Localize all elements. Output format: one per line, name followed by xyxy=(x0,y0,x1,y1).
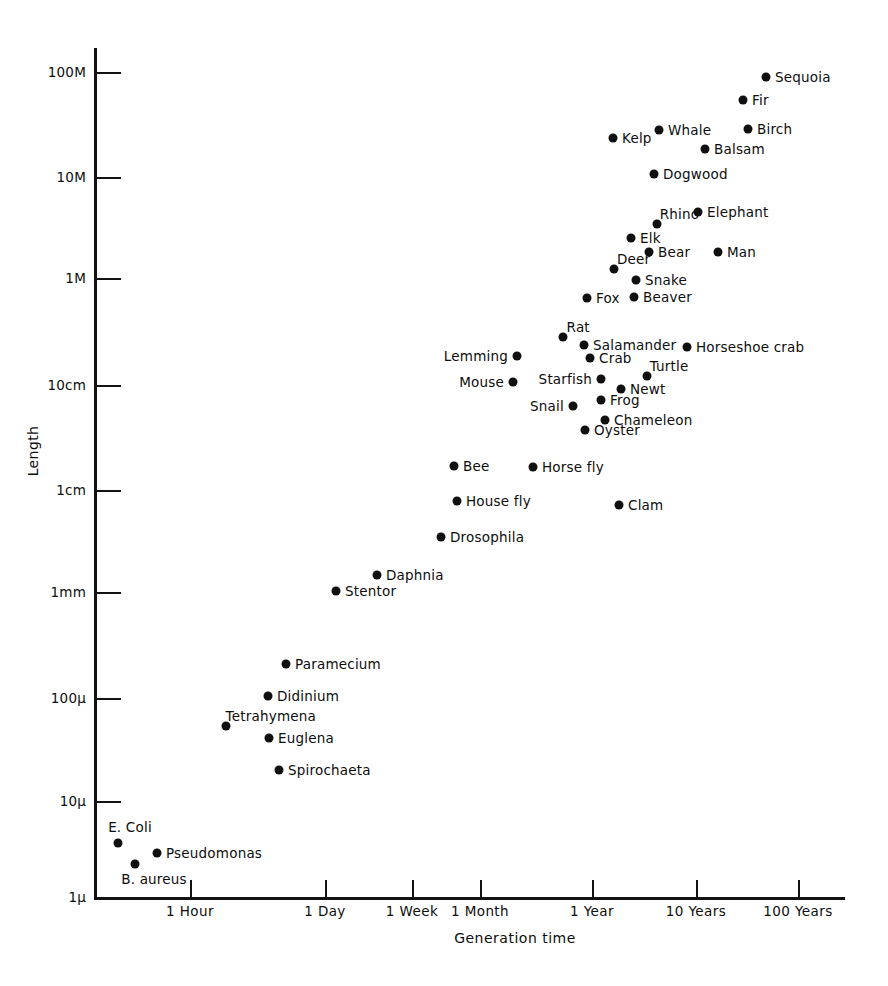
data-point xyxy=(627,234,636,243)
data-point-label: Man xyxy=(727,244,756,260)
data-point-label: Drosophila xyxy=(450,529,524,545)
data-point xyxy=(569,402,578,411)
y-tick-label: 10M xyxy=(0,169,94,185)
data-point-label: Bee xyxy=(463,458,489,474)
x-axis-line xyxy=(94,897,845,900)
x-tick-label: 100 Years xyxy=(763,903,832,919)
data-point xyxy=(373,571,382,580)
x-tick-mark xyxy=(190,880,192,898)
data-point-label: Spirochaeta xyxy=(288,762,371,778)
y-tick-label: 1M xyxy=(0,270,94,286)
data-point-label: Starfish xyxy=(539,371,592,387)
y-tick-mark xyxy=(97,177,121,179)
data-point xyxy=(597,396,606,405)
data-point-label: Crab xyxy=(599,350,632,366)
data-point xyxy=(615,501,624,510)
data-point xyxy=(153,849,162,858)
y-tick-label: 10cm xyxy=(0,377,94,393)
data-point xyxy=(583,294,592,303)
data-point-label: Tetrahymena xyxy=(226,708,316,724)
data-point xyxy=(332,587,341,596)
data-point-label: Turtle xyxy=(650,358,689,374)
data-point-label: Balsam xyxy=(714,141,765,157)
x-tick-mark xyxy=(412,880,414,898)
y-tick-mark xyxy=(97,698,121,700)
data-point-label: Fir xyxy=(752,92,769,108)
x-axis-title: Generation time xyxy=(454,930,576,946)
data-point xyxy=(450,462,459,471)
data-point-label: Fox xyxy=(596,290,620,306)
data-point-label: Paramecium xyxy=(295,656,381,672)
y-tick-label: 100μ xyxy=(0,690,94,706)
data-point-label: Stentor xyxy=(345,583,396,599)
data-point xyxy=(744,125,753,134)
x-tick-mark xyxy=(798,880,800,898)
data-point-label: House fly xyxy=(466,493,531,509)
data-point-label: Pseudomonas xyxy=(166,845,262,861)
data-point xyxy=(580,341,589,350)
data-point xyxy=(630,293,639,302)
data-point xyxy=(114,839,123,848)
data-point xyxy=(683,343,692,352)
data-point-label: Didinium xyxy=(277,688,339,704)
y-axis-title: Length xyxy=(25,426,41,477)
x-tick-label: 10 Years xyxy=(666,903,726,919)
x-tick-mark xyxy=(325,880,327,898)
y-tick-label: 1mm xyxy=(0,584,94,600)
data-point xyxy=(632,276,641,285)
x-tick-mark xyxy=(480,880,482,898)
data-point xyxy=(264,692,273,701)
data-point-label: Horseshoe crab xyxy=(696,339,804,355)
data-point xyxy=(762,73,771,82)
scatter-plot: Length Generation time 100M10M1M10cm1cm1… xyxy=(0,0,888,986)
data-point xyxy=(437,533,446,542)
data-point-label: Bear xyxy=(658,244,690,260)
data-point-label: Beaver xyxy=(643,289,692,305)
data-point-label: Elephant xyxy=(707,204,768,220)
data-point-label: Oyster xyxy=(594,422,640,438)
data-point-label: B. aureus xyxy=(121,871,187,887)
y-tick-mark xyxy=(97,72,121,74)
x-tick-label: 1 Year xyxy=(570,903,614,919)
y-tick-mark xyxy=(97,278,121,280)
x-tick-label: 1 Week xyxy=(386,903,438,919)
data-point-label: E. Coli xyxy=(108,819,152,835)
data-point-label: Whale xyxy=(668,122,711,138)
y-tick-mark xyxy=(97,385,121,387)
data-point-label: Dogwood xyxy=(663,166,728,182)
y-axis-line xyxy=(94,48,97,900)
data-point-label: Rat xyxy=(567,319,590,335)
data-point xyxy=(586,354,595,363)
data-point-label: Kelp xyxy=(622,130,652,146)
data-point-label: Horse fly xyxy=(542,459,604,475)
data-point-label: Snail xyxy=(530,398,564,414)
y-tick-label: 1cm xyxy=(0,482,94,498)
data-point xyxy=(529,463,538,472)
y-tick-label: 1μ xyxy=(0,889,94,905)
data-point xyxy=(265,734,274,743)
data-point-label: Daphnia xyxy=(386,567,444,583)
y-tick-label: 10μ xyxy=(0,793,94,809)
data-point-label: Frog xyxy=(610,392,640,408)
data-point xyxy=(581,426,590,435)
y-tick-mark xyxy=(97,592,121,594)
data-point xyxy=(714,248,723,257)
data-point xyxy=(650,170,659,179)
data-point xyxy=(513,352,522,361)
data-point xyxy=(509,378,518,387)
data-point xyxy=(275,766,284,775)
data-point-label: Euglena xyxy=(278,730,334,746)
data-point xyxy=(131,860,140,869)
data-point-label: Snake xyxy=(645,272,687,288)
x-tick-mark xyxy=(696,880,698,898)
data-point-label: Deer xyxy=(617,251,650,267)
data-point-label: Sequoia xyxy=(775,69,831,85)
data-point xyxy=(655,126,664,135)
data-point xyxy=(609,134,618,143)
data-point-label: Clam xyxy=(628,497,663,513)
data-point-label: Rhino xyxy=(660,206,700,222)
data-point xyxy=(597,375,606,384)
y-tick-label: 100M xyxy=(0,64,94,80)
y-tick-mark xyxy=(97,897,121,899)
y-tick-mark xyxy=(97,801,121,803)
